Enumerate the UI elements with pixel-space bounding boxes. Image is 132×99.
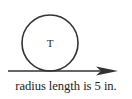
diagram-canvas: T — [0, 0, 132, 78]
rolling-wheel-figure: T radius length is 5 in. — [0, 0, 132, 99]
figure-caption: radius length is 5 in. — [0, 78, 132, 95]
wheel-center-label: T — [47, 37, 54, 49]
